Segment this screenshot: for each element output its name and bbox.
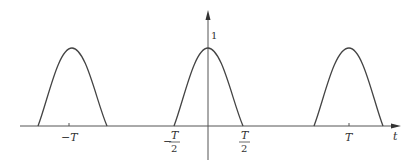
pos-half-denominator: 2 xyxy=(241,143,247,154)
label-pos-half-T: T 2 xyxy=(239,129,250,154)
label-neg-half-T: − T 2 xyxy=(163,129,180,154)
amplitude-axis xyxy=(206,10,211,160)
pulse-train-diagram: 1 t −T − T 2 T 2 T xyxy=(0,0,420,166)
amplitude-axis-arrow-icon xyxy=(206,10,211,20)
peak-label: 1 xyxy=(211,30,217,41)
t-axis-arrow-icon xyxy=(391,124,401,129)
neg-half-denominator: 2 xyxy=(171,143,177,154)
t-axis-label: t xyxy=(393,130,398,143)
t-axis xyxy=(20,124,401,129)
pulse-left xyxy=(38,48,107,126)
pos-half-numerator: T xyxy=(241,129,250,142)
pulse-right xyxy=(314,48,383,126)
neg-half-numerator: T xyxy=(171,129,180,142)
label-neg-T: −T xyxy=(61,131,79,144)
label-pos-T: T xyxy=(345,131,354,144)
